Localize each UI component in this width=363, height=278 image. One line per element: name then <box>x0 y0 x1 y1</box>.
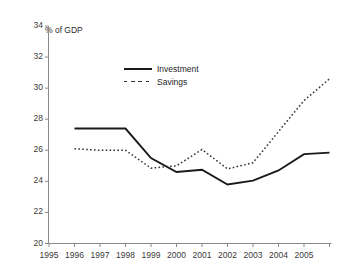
x-axis-tick-label: 2005 <box>289 251 319 260</box>
y-axis-tick-label: 30 <box>23 83 43 92</box>
chart-plot-area <box>0 0 363 278</box>
series-line-savings <box>75 79 330 169</box>
series-line-investment <box>75 129 330 185</box>
y-axis-tick-label: 28 <box>23 114 43 123</box>
chart-container: % of GDP Investment Savings 202224262830… <box>0 0 363 278</box>
y-axis-tick-label: 22 <box>23 207 43 216</box>
y-axis-tick-label: 24 <box>23 176 43 185</box>
y-axis-tick-label: 32 <box>23 52 43 61</box>
y-axis-tick-label: 20 <box>23 239 43 248</box>
y-axis-tick-label: 26 <box>23 145 43 154</box>
y-axis-tick-label: 34 <box>23 21 43 30</box>
